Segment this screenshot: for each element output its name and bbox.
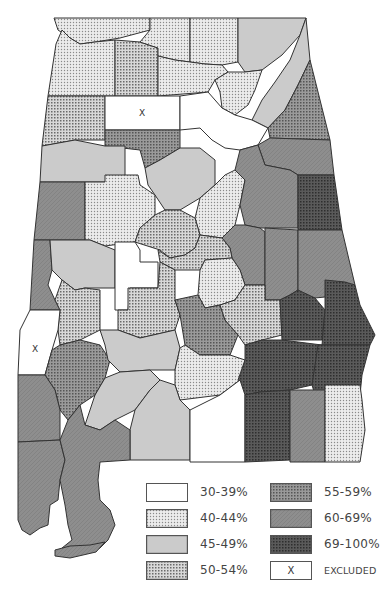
legend-item-excluded: X EXCLUDED: [270, 560, 376, 580]
legend-swatch-excluded: X: [270, 561, 312, 580]
excluded-mark-winston: X: [139, 108, 145, 118]
legend-label: 69-100%: [324, 537, 380, 551]
map-legend: 30-39% 40-44% 45-49% 50-54% 55-59% 60-69…: [146, 482, 386, 592]
legend-item-45-49: 45-49%: [146, 534, 248, 554]
legend-label: 60-69%: [324, 511, 372, 525]
county-colbert-east: [115, 40, 158, 96]
legend-swatch-50-54: [146, 561, 188, 580]
county-greene: [55, 280, 100, 345]
county-franklin: [42, 96, 105, 146]
legend-label: 50-54%: [200, 563, 248, 577]
legend-item-69-100: 69-100%: [270, 534, 380, 554]
legend-swatch-40-44: [146, 509, 188, 528]
county-dale: [290, 390, 325, 462]
legend-swatch-30-39: [146, 483, 188, 502]
legend-label: 45-49%: [200, 537, 248, 551]
county-pike-coffee: [245, 390, 290, 462]
county-tuscaloosa: [50, 240, 115, 290]
county-lee: [322, 280, 375, 345]
x-mark-icon: X: [288, 565, 295, 576]
legend-item-60-69: 60-69%: [270, 508, 372, 528]
legend-label: EXCLUDED: [324, 565, 376, 576]
legend-label: 40-44%: [200, 511, 248, 525]
excluded-mark-sumter: X: [32, 344, 38, 354]
legend-swatch-60-69: [270, 509, 312, 528]
legend-item-50-54: 50-54%: [146, 560, 248, 580]
legend-label: 30-39%: [200, 485, 248, 499]
legend-item-30-39: 30-39%: [146, 482, 248, 502]
legend-label: 55-59%: [324, 485, 372, 499]
legend-item-55-59: 55-59%: [270, 482, 372, 502]
legend-swatch-45-49: [146, 535, 188, 554]
legend-item-40-44: 40-44%: [146, 508, 248, 528]
county-macon-bullock: [238, 340, 322, 395]
county-lamar: [34, 182, 85, 240]
county-washington: [18, 440, 65, 535]
legend-swatch-55-59: [270, 483, 312, 502]
county-madison: [190, 18, 238, 65]
county-cherokee: [298, 175, 342, 230]
county-clay: [265, 228, 298, 300]
county-henry: [325, 385, 365, 462]
legend-swatch-69-100: [270, 535, 312, 554]
